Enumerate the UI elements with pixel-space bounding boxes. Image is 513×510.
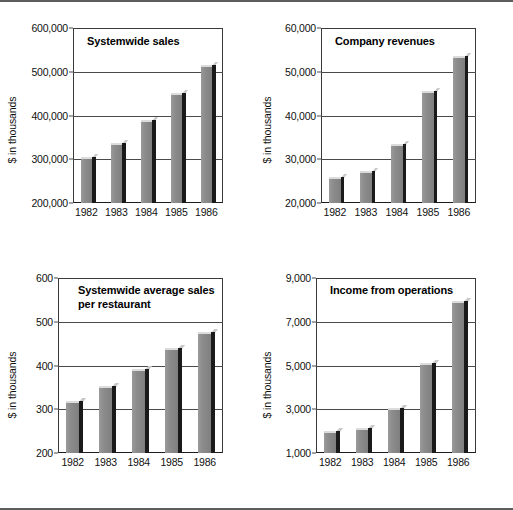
bar-side-face [403,144,406,204]
y-tick-label: 1,000 [286,447,316,459]
x-tick-label: 1982 [61,456,84,468]
x-tick-label: 1985 [165,206,188,218]
bar-front-face [111,143,123,203]
y-axis-label: $ in thousands [4,2,20,257]
y-axis-label-text: $ in thousands [261,96,273,163]
bar-front-face [171,93,183,203]
bar-series [73,28,223,203]
y-tick-label: 30,000 [285,153,321,165]
bar-front-face [132,369,145,453]
chart-systemwide-sales: $ in thousands Systemwide sales 200,0003… [0,2,255,257]
chart-grid: $ in thousands Systemwide sales 200,0003… [0,2,513,508]
y-tick-label: 400 [36,360,58,372]
bar-front-face [99,386,112,453]
bar [99,386,116,453]
bar [420,363,436,453]
bar [141,120,156,203]
x-tick-label: 1985 [160,456,183,468]
bar [388,408,404,453]
bar [201,65,216,203]
y-tick-label: 300,000 [31,153,73,165]
bar-side-face [152,120,155,203]
y-tick-label: 600,000 [31,22,73,34]
bar-front-face [388,408,400,453]
panel-systemwide-sales: $ in thousands Systemwide sales 200,0003… [0,2,255,257]
bar [422,91,438,203]
bar [329,177,345,203]
bar-front-face [324,431,336,453]
bar-side-face [434,91,437,203]
figure-page: $ in thousands Systemwide sales 200,0003… [0,0,513,510]
bar-side-face [372,171,375,203]
bar-side-face [122,143,125,203]
bar [360,171,376,203]
y-tick-label: 5,000 [286,360,316,372]
x-tick-label: 1983 [105,206,128,218]
x-tick-label: 1982 [75,206,98,218]
bar-side-face [341,177,344,203]
bar-side-face [211,332,215,453]
y-tick-label: 3,000 [286,403,316,415]
bar [165,348,182,453]
bar [453,56,469,203]
bar-front-face [356,428,368,453]
bar-side-face [336,431,340,453]
panel-company-revenues: $ in thousands Company revenues 20,00030… [255,2,513,257]
bar [111,143,126,203]
x-tick-label: 1983 [355,206,378,218]
bar-front-face [422,91,434,203]
bar-side-face [79,401,83,453]
bar [132,369,149,453]
bar-front-face [452,301,464,453]
bar-side-face [145,369,149,453]
bar-side-face [432,363,436,453]
bar-front-face [165,348,178,453]
x-tick-label: 1985 [417,206,440,218]
y-tick-label: 400,000 [31,110,73,122]
bar-front-face [360,171,372,203]
y-tick-label: 200,000 [31,197,73,209]
y-tick-label: 300 [36,403,58,415]
bar-front-face [81,157,93,203]
y-axis-label: $ in thousands [259,2,275,257]
chart-income-from-operations: $ in thousands Income from operations 1,… [255,257,513,510]
bar [81,157,96,203]
bar-side-face [112,386,116,453]
bar-side-face [368,428,372,453]
bar [356,428,372,453]
panel-systemwide-average-sales: $ in thousands Systemwide average sales … [0,257,255,510]
bar-side-face [464,301,468,453]
x-tick-label: 1986 [448,206,471,218]
bar [66,401,83,453]
bar-side-face [178,348,182,453]
bar-side-face [92,157,95,203]
bar [391,144,407,204]
bar-side-face [182,93,185,203]
y-tick-label: 500 [36,316,58,328]
bar-series [316,278,476,453]
x-tick-label: 1986 [195,206,218,218]
chart-systemwide-average-sales: $ in thousands Systemwide average sales … [0,257,255,510]
bar [198,332,215,453]
y-tick-label: 200 [36,447,58,459]
panel-income-from-operations: $ in thousands Income from operations 1,… [255,257,513,510]
bar-front-face [201,65,213,203]
bar-side-face [212,65,215,203]
y-axis-label-text: $ in thousands [6,96,18,163]
bar-front-face [141,120,153,203]
bar-side-face [400,408,404,453]
x-tick-label: 1982 [319,456,342,468]
x-tick-label: 1983 [351,456,374,468]
y-axis-label-text: $ in thousands [6,351,18,418]
y-tick-label: 20,000 [285,197,321,209]
y-tick-label: 60,000 [285,22,321,34]
bar-front-face [198,332,211,453]
x-tick-label: 1986 [193,456,216,468]
bar [324,431,340,453]
x-tick-label: 1984 [127,456,150,468]
bar-front-face [453,56,465,203]
y-tick-label: 7,000 [286,316,316,328]
x-tick-label: 1985 [415,456,438,468]
y-axis-label-text: $ in thousands [261,351,273,418]
y-tick-label: 500,000 [31,66,73,78]
